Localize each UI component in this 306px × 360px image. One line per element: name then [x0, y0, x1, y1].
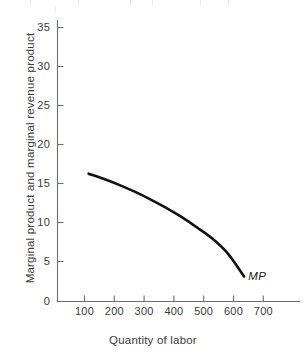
- x-tick-label-600: 600: [224, 305, 243, 317]
- mp-curve: [89, 174, 244, 277]
- chart-figure: 35 30 25 20 15 10 5 0 100 200 300 400 50…: [0, 0, 306, 360]
- x-axis-ticks: [85, 296, 264, 302]
- x-tick-label-400: 400: [164, 305, 183, 317]
- x-tick-label-700: 700: [254, 305, 273, 317]
- x-axis-title: Quantity of labor: [0, 334, 306, 346]
- x-tick-label-500: 500: [194, 305, 213, 317]
- x-tick-label-200: 200: [105, 305, 124, 317]
- x-tick-label-100: 100: [75, 305, 94, 317]
- y-axis-title: Marginal product and marginal revenue pr…: [24, 18, 36, 298]
- y-axis-ticks: [58, 28, 64, 262]
- x-tick-label-300: 300: [135, 305, 154, 317]
- mp-curve-label: MP: [248, 270, 266, 282]
